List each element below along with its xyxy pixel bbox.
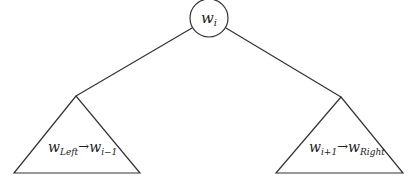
root-node: wi [190,0,228,37]
left-subtree: wLeft→wi−1 [14,96,140,173]
edge-root-left [76,28,192,96]
edge-root-right [226,28,341,97]
right-triangle [276,97,403,173]
left-triangle [14,96,140,173]
right-subtree: wi+1→wRight [276,97,403,173]
tree-diagram: wi wLeft→wi−1 wi+1→wRight [0,0,413,185]
